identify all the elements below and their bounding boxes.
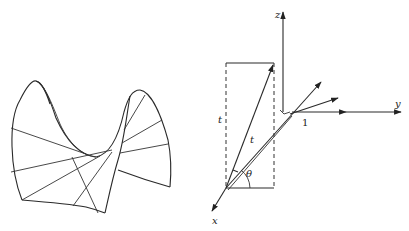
figure-canvas: z y 1 x θ t t xyxy=(0,0,409,231)
saddle-right-edge xyxy=(140,90,171,187)
ruling-line xyxy=(120,144,168,153)
z-axis-label: z xyxy=(274,9,281,20)
unit-length-label: 1 xyxy=(302,117,308,128)
ruling-line xyxy=(22,156,100,200)
right-angle-marker xyxy=(280,110,290,114)
saddle-left-fold-inner xyxy=(38,82,96,157)
ruling-line xyxy=(11,150,112,172)
ruling-ray-double xyxy=(228,116,292,190)
saddle-surface xyxy=(11,81,171,213)
ruling-ray xyxy=(226,82,321,188)
x-axis xyxy=(212,188,226,211)
ruling-line xyxy=(72,157,98,213)
theta-label: θ xyxy=(246,168,252,179)
t-label-ray: t xyxy=(250,134,255,145)
t-label-vertical: t xyxy=(218,114,223,125)
saddle-left-edge xyxy=(12,81,50,200)
y-axis-label: y xyxy=(394,98,401,109)
saddle-right-fold xyxy=(96,90,140,157)
x-axis-label: x xyxy=(212,215,218,226)
saddle-right-lower-edge xyxy=(118,170,170,187)
construction-diagram: z y 1 x θ t t xyxy=(212,9,401,226)
saddle-right-inner-edge xyxy=(105,96,130,213)
theta-tick xyxy=(233,170,238,172)
ruling-line xyxy=(11,128,86,154)
